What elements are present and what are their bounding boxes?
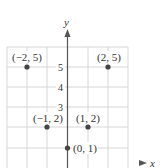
point-neg1-2 bbox=[44, 124, 49, 129]
x-axis-arrow-icon bbox=[139, 160, 147, 166]
y-tick-5: 5 bbox=[58, 62, 63, 73]
point-0-1 bbox=[65, 145, 70, 150]
point-label: (2, 5) bbox=[97, 51, 121, 64]
y-axis-arrow-icon bbox=[65, 29, 71, 37]
x-axis-label: x bbox=[149, 157, 155, 168]
point-label: (0, 1) bbox=[73, 142, 97, 155]
point-label: (−2, 5) bbox=[12, 51, 42, 64]
point-1-2 bbox=[85, 124, 90, 129]
point-neg2-5 bbox=[24, 64, 29, 69]
y-axis-label: y bbox=[63, 16, 69, 28]
y-tick-4: 4 bbox=[58, 82, 63, 93]
point-label: (−1, 2) bbox=[33, 112, 63, 125]
point-2-5 bbox=[105, 64, 110, 69]
scatter-plot: y x 5 4 3 (−2, 5) (2, 5) (−1, 2) (1, 2) … bbox=[0, 0, 163, 168]
point-label: (1, 2) bbox=[76, 112, 100, 125]
